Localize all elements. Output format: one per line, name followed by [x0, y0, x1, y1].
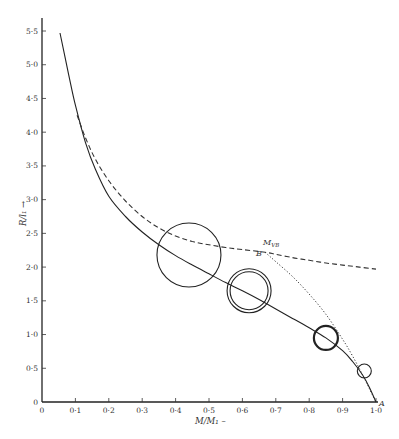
y-tick-label: 4·0: [26, 128, 38, 137]
y-tick-label: 5·5: [26, 27, 38, 36]
y-tick-label: 2·0: [26, 263, 38, 272]
circle-marker-inner: [230, 272, 268, 310]
x-tick-label: 0·7: [270, 406, 282, 415]
x-tick-label: 0·2: [103, 406, 115, 415]
curves: [60, 33, 376, 402]
x-tick-label: 0·1: [69, 406, 81, 415]
solid-curve: [60, 33, 376, 402]
x-tick-label: 0·9: [337, 406, 349, 415]
circle-marker: [157, 223, 221, 287]
y-tick-label: 2·5: [26, 229, 38, 238]
y-tick-label: 1·0: [26, 330, 38, 339]
y-tick-label: 5·0: [26, 60, 38, 69]
x-tick-label: 0·3: [136, 406, 148, 415]
y-tick-label: 0: [33, 398, 38, 407]
y-tick-label: 0·5: [26, 364, 38, 373]
tick-marks: 00·10·20·30·40·50·60·70·80·91·000·51·01·…: [26, 27, 382, 416]
x-axis-title: M/M₁ –: [194, 416, 226, 426]
m-vb-label: MVB: [262, 238, 279, 248]
point-a-label: A: [378, 399, 385, 408]
y-tick-label: 3·5: [26, 161, 38, 170]
dashed-curve: [77, 115, 376, 269]
y-tick-label: 4·5: [26, 94, 38, 103]
x-tick-label: 0·5: [203, 406, 215, 415]
y-axis-title: R/l₁ →: [18, 201, 28, 227]
y-tick-label: 1·5: [26, 296, 38, 305]
chart-canvas: 00·10·20·30·40·50·60·70·80·91·000·51·01·…: [0, 0, 399, 439]
x-tick-label: 0·4: [170, 406, 182, 415]
x-tick-label: 0·6: [236, 406, 248, 415]
m-vb-sub: VB: [271, 242, 279, 248]
point-b-label: B: [255, 249, 262, 258]
x-tick-label: 0·8: [303, 406, 315, 415]
x-tick-label: 0: [40, 406, 45, 415]
circle-marker: [227, 269, 271, 313]
axes: [42, 18, 378, 402]
